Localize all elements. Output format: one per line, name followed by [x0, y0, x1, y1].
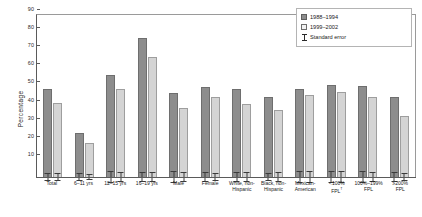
bar-group	[37, 15, 69, 178]
y-tick-10: 10	[28, 151, 37, 157]
x-tick-label: Mexican- American	[289, 180, 321, 216]
legend: 1988–1994 1999–2002 Standard error	[296, 8, 412, 47]
y-tick-90: 90	[28, 6, 37, 12]
x-tick-label: Black, non- Hispanic	[258, 180, 290, 216]
x-tick-label: 6–11 yrs	[68, 180, 100, 216]
legend-label-series-1: 1999–2002	[310, 24, 338, 30]
x-tick-label: <100% FPL†	[321, 180, 353, 216]
bar-group	[69, 15, 101, 178]
legend-swatch-dark-icon	[301, 14, 307, 20]
error-bar-icon	[301, 34, 307, 41]
y-tick-80: 80	[28, 24, 37, 30]
bar	[106, 75, 115, 178]
legend-item-series-0: 1988–1994	[301, 12, 407, 22]
bar	[358, 86, 367, 178]
x-tick-label: Male	[163, 180, 195, 216]
legend-label-standard-error: Standard error	[310, 34, 346, 40]
bar	[242, 104, 251, 178]
bar	[337, 92, 346, 178]
bar-group	[258, 15, 290, 178]
legend-item-standard-error: Standard error	[301, 32, 407, 42]
bar	[179, 108, 188, 178]
bar	[390, 97, 399, 179]
bar	[327, 85, 336, 178]
y-tick-40: 40	[28, 97, 37, 103]
y-tick-60: 60	[28, 60, 37, 66]
y-tick-20: 20	[28, 133, 37, 139]
y-axis-title: Percentage	[17, 90, 24, 127]
x-tick-label: White, non- Hispanic	[226, 180, 258, 216]
bar	[305, 95, 314, 178]
bar	[368, 97, 377, 178]
bar	[274, 110, 283, 178]
bar	[138, 38, 147, 178]
bar	[201, 87, 210, 178]
bar	[264, 97, 273, 179]
bar-group	[132, 15, 164, 178]
bar-group	[100, 15, 132, 178]
x-tick-label: 16–19 yrs	[131, 180, 163, 216]
y-tick-50: 50	[28, 78, 37, 84]
x-tick-label: 100%–199% FPL	[353, 180, 385, 216]
bar	[211, 97, 220, 178]
bar-chart: Percentage 102030405060708090 Total6–11 …	[0, 0, 422, 217]
bar	[295, 89, 304, 178]
x-tick-label: ≥200% FPL	[384, 180, 416, 216]
bar-group	[163, 15, 195, 178]
bar	[148, 57, 157, 178]
legend-item-series-1: 1999–2002	[301, 22, 407, 32]
footnote-marker: †	[340, 186, 342, 191]
y-tick-30: 30	[28, 115, 37, 121]
bar	[232, 89, 241, 178]
x-axis-labels: Total6–11 yrs12–15 yrs16–19 yrsMaleFemal…	[36, 180, 416, 216]
y-tick-70: 70	[28, 42, 37, 48]
bar-group	[195, 15, 227, 178]
bar	[43, 89, 52, 178]
legend-swatch-light-icon	[301, 24, 307, 30]
bar	[85, 143, 94, 178]
x-tick-label: Total	[36, 180, 68, 216]
bar	[75, 133, 84, 178]
bar-group	[226, 15, 258, 178]
legend-label-series-0: 1988–1994	[310, 14, 338, 20]
bar	[116, 89, 125, 178]
bar	[400, 116, 409, 178]
x-axis-line	[36, 177, 416, 178]
x-tick-label: 12–15 yrs	[99, 180, 131, 216]
x-tick-label: Female	[194, 180, 226, 216]
bar	[169, 93, 178, 178]
bar	[53, 103, 62, 178]
